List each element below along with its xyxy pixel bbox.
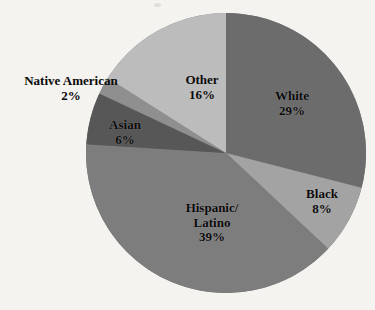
slice-label-hispanic-latino-name-line1: Hispanic/ bbox=[173, 201, 251, 216]
slice-label-native-american-percent: 2% bbox=[4, 89, 138, 104]
slice-label-black: Black 8% bbox=[291, 187, 353, 216]
slice-label-other-percent: 16% bbox=[167, 88, 237, 103]
slice-label-hispanic-latino-name-line2: Latino bbox=[173, 216, 251, 231]
slice-label-black-percent: 8% bbox=[291, 202, 353, 217]
slice-label-native-american-name: Native American bbox=[4, 74, 138, 89]
slice-label-white-percent: 29% bbox=[255, 104, 329, 119]
slice-label-other-name: Other bbox=[167, 73, 237, 88]
slice-label-white-name: White bbox=[255, 89, 329, 104]
slice-label-asian-percent: 6% bbox=[95, 133, 155, 148]
slice-label-white: White 29% bbox=[255, 89, 329, 118]
slice-label-hispanic-latino-percent: 39% bbox=[173, 230, 251, 245]
pie-chart-canvas bbox=[0, 0, 375, 310]
pie-chart: White 29% Black 8% Hispanic/ Latino 39% … bbox=[0, 0, 375, 310]
slice-label-asian: Asian 6% bbox=[95, 118, 155, 147]
slice-label-native-american: Native American 2% bbox=[4, 74, 138, 103]
pie-slice-group bbox=[86, 13, 366, 293]
slice-label-other: Other 16% bbox=[167, 73, 237, 102]
slice-label-black-name: Black bbox=[291, 187, 353, 202]
slice-label-asian-name: Asian bbox=[95, 118, 155, 133]
slice-label-hispanic-latino: Hispanic/ Latino 39% bbox=[173, 201, 251, 245]
